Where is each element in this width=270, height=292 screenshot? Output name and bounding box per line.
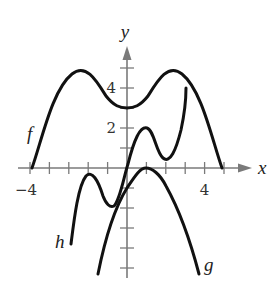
y-axis-arrow-icon [123,46,132,60]
y-axis-label: y [119,21,130,42]
x-axis-label: x [257,157,267,178]
x-axis-arrow-icon [238,164,252,173]
x-tick-label-neg4: −4 [15,181,37,199]
curve-label-h: h [55,231,65,252]
curve-g [98,168,199,274]
x-tick-label-4: 4 [200,181,210,199]
curve-label-f: f [27,123,35,144]
function-graph: −4 4 2 4 y x f h g [0,0,270,292]
curve-label-g: g [204,254,214,275]
y-tick-label-4: 4 [106,79,116,97]
y-tick-label-2: 2 [106,119,116,137]
